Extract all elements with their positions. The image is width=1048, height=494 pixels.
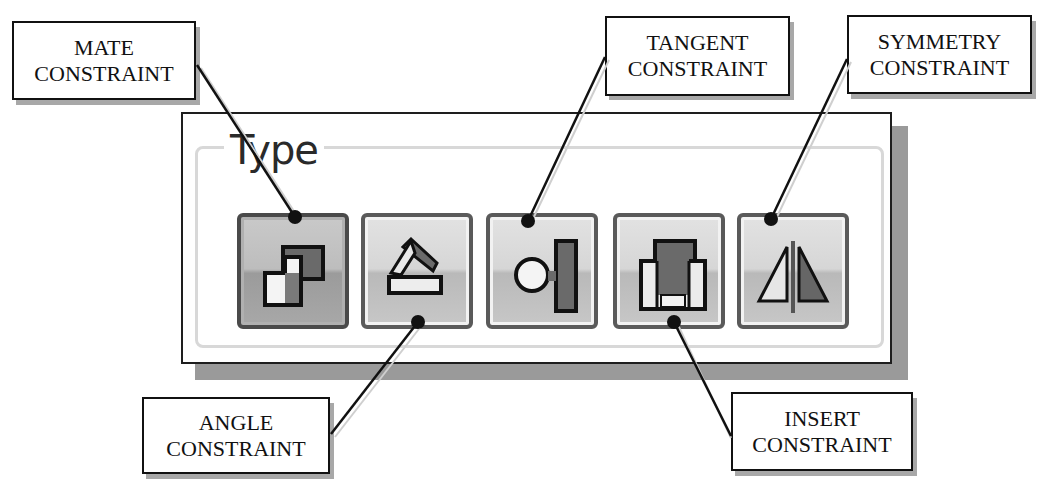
callout-line2: CONSTRAINT — [733, 432, 911, 458]
mate-constraint-icon — [241, 217, 345, 325]
callout-line2: CONSTRAINT — [144, 436, 328, 462]
callout-line1: SYMMETRY — [849, 29, 1030, 55]
angle-constraint-button[interactable] — [361, 213, 473, 329]
type-group-title: Type — [224, 128, 324, 172]
callout-line1: INSERT — [733, 406, 911, 432]
tangent-constraint-callout: TANGENT CONSTRAINT — [605, 16, 790, 96]
tangent-constraint-icon — [490, 217, 594, 325]
callout-line1: ANGLE — [144, 410, 328, 436]
tangent-constraint-button[interactable] — [486, 213, 598, 329]
callout-line1: MATE — [14, 35, 194, 61]
symmetry-constraint-icon — [741, 217, 845, 325]
insert-constraint-button[interactable] — [613, 213, 725, 329]
insert-constraint-callout: INSERT CONSTRAINT — [731, 392, 913, 471]
angle-constraint-icon — [365, 217, 469, 325]
insert-constraint-icon — [617, 217, 721, 325]
symmetry-constraint-button[interactable] — [737, 213, 849, 329]
callout-line2: CONSTRAINT — [849, 55, 1030, 81]
callout-line1: TANGENT — [607, 30, 788, 56]
callout-line2: CONSTRAINT — [14, 61, 194, 87]
symmetry-constraint-callout: SYMMETRY CONSTRAINT — [847, 15, 1032, 94]
angle-constraint-callout: ANGLE CONSTRAINT — [142, 397, 330, 474]
mate-constraint-callout: MATE CONSTRAINT — [12, 21, 196, 100]
callout-line2: CONSTRAINT — [607, 56, 788, 82]
mate-constraint-button[interactable] — [237, 213, 349, 329]
